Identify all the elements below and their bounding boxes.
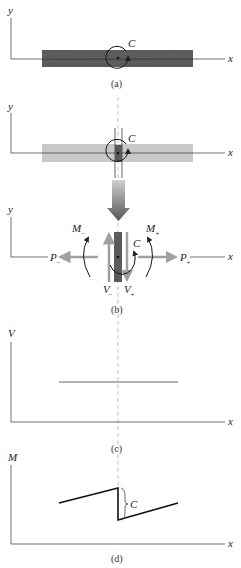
couple-label: C bbox=[128, 37, 136, 49]
jump-label: C bbox=[130, 498, 138, 510]
couple-label: C bbox=[128, 132, 136, 144]
caption-d: (d) bbox=[111, 553, 123, 565]
svg-text:+: + bbox=[155, 230, 160, 238]
moment-line bbox=[59, 488, 178, 520]
x-axis-label: x bbox=[227, 415, 233, 427]
caption-a: (a) bbox=[111, 78, 122, 90]
y-axis-label: M bbox=[7, 451, 18, 463]
jump-brace bbox=[121, 488, 128, 520]
x-axis-label: x bbox=[227, 146, 233, 158]
x-axis-label: x bbox=[227, 537, 233, 549]
caption-c: (c) bbox=[111, 443, 122, 455]
couple-point bbox=[117, 256, 120, 259]
x-axis-label: x bbox=[227, 52, 233, 64]
panel-a2: y x C bbox=[7, 100, 233, 178]
x-axis-label: x bbox=[227, 250, 233, 262]
y-axis-label: y bbox=[7, 4, 13, 16]
couple-point bbox=[117, 152, 120, 155]
beam-couple-diagram: y x C (a) y x C y x bbox=[0, 0, 241, 568]
svg-text:−: − bbox=[108, 291, 113, 299]
svg-text:+: + bbox=[186, 259, 191, 267]
couple-arrow bbox=[110, 252, 135, 274]
panel-b: y x P − P + V − V + M − M + C (b) bbox=[7, 203, 233, 316]
svg-text:+: + bbox=[130, 291, 135, 299]
svg-text:−: − bbox=[81, 230, 86, 238]
panel-a: y x C (a) bbox=[7, 4, 233, 90]
panel-d: M x C (d) bbox=[7, 451, 233, 565]
y-axis-label: y bbox=[7, 100, 13, 112]
couple-label: C bbox=[133, 237, 141, 249]
panel-c: V x (c) bbox=[8, 327, 233, 455]
y-axis-label: V bbox=[8, 327, 16, 339]
caption-b: (b) bbox=[111, 304, 123, 316]
y-axis-label: y bbox=[7, 203, 13, 215]
free-body-arrow bbox=[107, 180, 130, 221]
couple-point bbox=[117, 57, 120, 60]
svg-text:−: − bbox=[56, 259, 61, 267]
